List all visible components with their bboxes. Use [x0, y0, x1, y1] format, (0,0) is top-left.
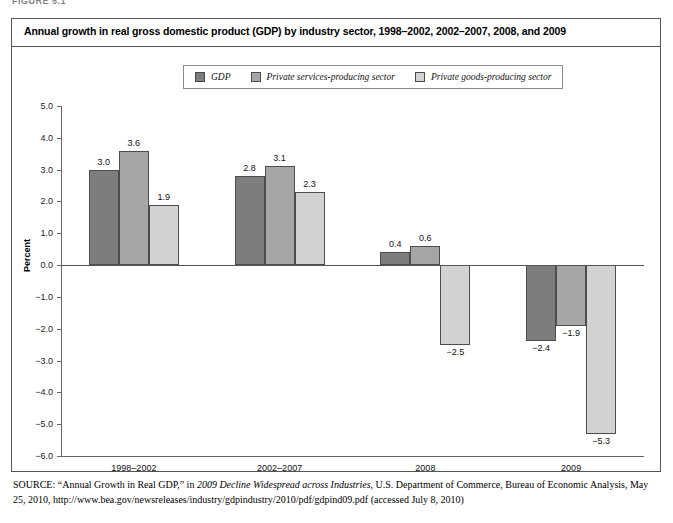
bar[interactable] [149, 205, 179, 265]
plot-area: Percent 5.04.03.02.01.00.0−1.0−2.0−3.0−4… [12, 19, 660, 471]
y-tick-mark [57, 138, 61, 139]
source-text-part1: “Annual Growth in Real GDP,” in [55, 479, 197, 490]
bar-value-label: 3.6 [111, 138, 157, 148]
bar-value-label: 3.1 [257, 153, 303, 163]
y-tick-mark [57, 170, 61, 171]
y-tick-label: 3.0 [19, 165, 53, 175]
x-category-label: 1998–2002 [61, 463, 207, 473]
bar-value-label: −2.4 [518, 343, 564, 353]
y-tick-mark [57, 233, 61, 234]
y-tick-mark [57, 106, 61, 107]
y-tick-label: −4.0 [19, 387, 53, 397]
y-tick-label: −1.0 [19, 292, 53, 302]
bar[interactable] [410, 246, 440, 265]
y-tick-label: −2.0 [19, 324, 53, 334]
y-tick-label: 0.0 [19, 260, 53, 270]
bar[interactable] [586, 265, 616, 434]
bar[interactable] [235, 176, 265, 265]
figure-number-label: FIGURE 5.1 [12, 0, 66, 6]
bar[interactable] [440, 265, 470, 345]
bar-value-label: 0.6 [402, 233, 448, 243]
y-tick-label: −3.0 [19, 356, 53, 366]
y-tick-mark [57, 329, 61, 330]
source-note: SOURCE: “Annual Growth in Real GDP,” in … [13, 478, 661, 507]
y-tick-mark [57, 361, 61, 362]
y-tick-mark [57, 297, 61, 298]
bar[interactable] [380, 252, 410, 265]
bar[interactable] [89, 170, 119, 265]
x-category-label: 2002–2007 [207, 463, 353, 473]
y-tick-label: 1.0 [19, 228, 53, 238]
x-category-label: 2008 [353, 463, 499, 473]
y-axis-line [61, 106, 62, 456]
bar-value-label: 2.3 [287, 179, 333, 189]
y-tick-mark [57, 392, 61, 393]
y-tick-label: 2.0 [19, 196, 53, 206]
x-axis-line [61, 456, 644, 457]
bar-value-label: −5.3 [578, 436, 624, 446]
bar[interactable] [556, 265, 586, 325]
y-tick-mark [57, 201, 61, 202]
source-prefix: SOURCE: [13, 479, 55, 490]
y-tick-label: −5.0 [19, 419, 53, 429]
y-tick-mark [57, 424, 61, 425]
figure-frame: Annual growth in real gross domestic pro… [11, 18, 661, 472]
y-tick-label: 5.0 [19, 101, 53, 111]
bar[interactable] [295, 192, 325, 265]
y-tick-label: 4.0 [19, 133, 53, 143]
bar-value-label: 1.9 [141, 192, 187, 202]
bar-value-label: −2.5 [432, 347, 478, 357]
y-tick-label: −6.0 [19, 451, 53, 461]
zero-baseline [61, 265, 644, 266]
bar[interactable] [119, 151, 149, 266]
x-category-label: 2009 [498, 463, 644, 473]
source-publication-title: 2009 Decline Widespread across Industrie… [197, 479, 371, 490]
